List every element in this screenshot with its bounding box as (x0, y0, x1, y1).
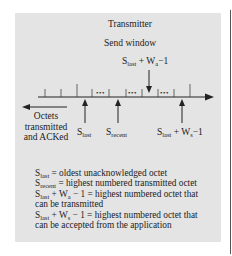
legend-line: can be accepted from the application (35, 220, 215, 230)
legend-line: Slast + Ws − 1 = highest numbered octet … (35, 210, 215, 220)
legend-line: Slast + Wa − 1 = highest numbered octet … (35, 189, 215, 199)
legend-line: can be transmitted (35, 199, 215, 209)
ellipsis-1: ••• (96, 88, 105, 98)
ellipsis-2: ••• (128, 88, 137, 98)
left-arrow-label: Octets transmitted and ACKed (18, 111, 74, 143)
ellipsis-3: ••• (160, 88, 169, 98)
legend-line: Slast = oldest unacknowledged octet (35, 168, 215, 178)
pointer-label-s-recent: Srecent (106, 127, 127, 137)
legend: Slast = oldest unacknowledged octet Srec… (35, 168, 215, 230)
pointer-label-s-last: Slast (77, 127, 91, 137)
pointer-label-s-last-ws: Slast + Ws−1 (157, 127, 203, 137)
legend-line: Srecent = highest numbered transmitted o… (35, 178, 215, 188)
